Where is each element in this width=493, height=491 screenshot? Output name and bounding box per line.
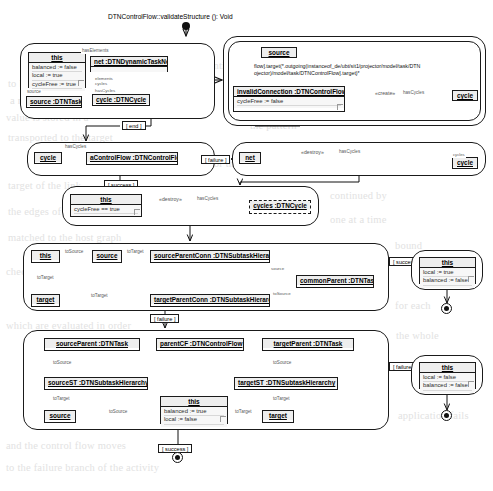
- link-label-hasElements: hasElements: [81, 48, 110, 54]
- object-node-cycle[interactable]: cycle: [34, 152, 62, 164]
- attr: cycleFree == true: [74, 206, 138, 214]
- attr: balanced := false: [423, 382, 472, 390]
- link-label-hasCycles: hasCycles: [94, 88, 116, 94]
- ghost-text: the whole: [396, 330, 439, 341]
- object-node-targetParentConn[interactable]: targetParentConn :DTNSubtaskHierarchy: [150, 294, 270, 307]
- link-label-toSource: toSource: [52, 360, 72, 366]
- ocl-constraint-text-2: ojector)/model/task/DTNControlFlow].targ…: [254, 70, 360, 77]
- ocl-line-2: ojector)/model/task/DTNControlFlow].targ…: [254, 70, 360, 76]
- object-node-this[interactable]: this balanced := true local := false: [160, 396, 228, 424]
- object-node-this[interactable]: this cycleFree == true: [70, 194, 142, 217]
- ghost-text: to the failure branch of the activity: [6, 462, 159, 473]
- link-label-toSource: toSource: [64, 249, 84, 255]
- object-node-cycle[interactable]: cycle :DTNCycle: [92, 94, 150, 106]
- attr: balanced := false: [32, 64, 82, 72]
- object-node-this[interactable]: this local := false balanced := false: [419, 362, 476, 389]
- object-node-net[interactable]: net: [239, 152, 261, 164]
- object-node-sourceParentConn[interactable]: sourceParentConn :DTNSubtaskHierarchy: [150, 250, 270, 263]
- object-title: sourceParentConn :DTNSubtaskHierarchy: [151, 251, 269, 260]
- object-title: this: [420, 363, 475, 373]
- object-attrs: [91, 67, 167, 72]
- fold-corner-icon: [78, 80, 84, 86]
- object-node-invalidConnection[interactable]: invalidConnection :DTNControlFlow cycleF…: [233, 86, 345, 112]
- object-node-targetST[interactable]: targetST :DTNSubtaskHierarchy: [234, 377, 338, 390]
- link-label-hasCycles: hasCycles: [338, 149, 361, 155]
- object-node-target[interactable]: target: [262, 410, 294, 423]
- object-title: source: [262, 48, 296, 57]
- stop-node: [441, 410, 452, 421]
- link-label-source: source: [270, 266, 285, 272]
- link-label-toTarget: toTarget: [272, 396, 291, 402]
- link-label-toSource: toSource: [108, 409, 128, 415]
- object-node-source-ref[interactable]: source: [261, 47, 297, 58]
- ghost-text: continued by: [330, 190, 387, 201]
- object-node-net[interactable]: net :DTNDynamicTaskNet: [90, 56, 168, 72]
- object-title: net :DTNDynamicTaskNet: [91, 57, 167, 67]
- object-title: commonParent :DTNTask: [297, 276, 373, 285]
- fold-corner-icon: [220, 416, 226, 422]
- object-node-aControlFlow[interactable]: aControlFlow :DTNControlFlow: [86, 152, 178, 165]
- object-node-this[interactable]: this balanced := false local := true cyc…: [28, 52, 86, 88]
- attr: cycleFree := true: [32, 81, 82, 89]
- link-label-toTarget: toTarget: [126, 249, 145, 255]
- attr: local := true: [32, 72, 82, 80]
- fold-corner-icon: [468, 276, 474, 282]
- link-label-hasCycles: hasCycles: [64, 144, 87, 150]
- object-node-sourceParent[interactable]: sourceParent :DTNTask: [44, 338, 140, 351]
- object-title: this: [29, 53, 85, 63]
- link-stereotype-destroy: «destroy»: [300, 149, 325, 155]
- object-title: targetST :DTNSubtaskHierarchy: [235, 378, 337, 387]
- page-title: DTNControlFlow::validateStructure (): Vo…: [108, 13, 233, 20]
- ocl-line-1: flow].target(*.outgoing(instanceof_de/ub…: [254, 63, 420, 69]
- object-title: this: [420, 258, 475, 268]
- link-stereotype-create: «create»: [374, 90, 396, 96]
- fold-corner-icon: [468, 381, 474, 387]
- object-node-this[interactable]: this: [31, 250, 60, 263]
- ghost-text: and the control flow moves: [6, 440, 126, 451]
- guard-end: [ end ]: [122, 121, 146, 130]
- object-title: source :DTNTask: [27, 97, 81, 106]
- object-node-targetParent[interactable]: targetParent :DTNTask: [262, 338, 354, 351]
- object-node-sourceST[interactable]: sourceST :DTNSubtaskHierarchy: [44, 377, 148, 390]
- ghost-text: bound: [395, 240, 422, 251]
- link-label-toSource: toSource: [272, 360, 292, 366]
- object-title: target: [32, 295, 59, 304]
- link-label-toTarget: toTarget: [90, 293, 109, 299]
- object-node-cycles[interactable]: cycles :DTNCycle: [249, 200, 311, 214]
- object-node-source[interactable]: source: [44, 410, 76, 423]
- link-stereotype-destroy: «destroy»: [158, 196, 183, 202]
- object-title: targetParentConn :DTNSubtaskHierarchy: [151, 295, 269, 304]
- link-label-toTarget: toTarget: [52, 396, 71, 402]
- object-title: this: [71, 195, 141, 205]
- guard-failure: [ failure ]: [150, 314, 179, 323]
- object-node-commonParent[interactable]: commonParent :DTNTask: [296, 275, 374, 288]
- start-node: [182, 22, 190, 30]
- attr: local := true: [423, 269, 472, 277]
- object-title: cycle: [35, 153, 61, 162]
- object-node-target[interactable]: target: [31, 294, 60, 307]
- object-attrs: balanced := false local := true cycleFre…: [29, 63, 85, 91]
- link-label-hasCycles: hasCycles: [402, 90, 425, 96]
- object-node-source[interactable]: source :DTNTask: [26, 96, 82, 108]
- object-attrs: cycleFree == true: [71, 205, 141, 216]
- object-node-parentCF[interactable]: parentCF :DTNControlFlow: [156, 338, 244, 351]
- object-node-this[interactable]: this local := true balanced := false: [419, 257, 476, 284]
- attr: balanced := false: [423, 277, 472, 285]
- object-node-cycle-ref[interactable]: cycle: [452, 90, 478, 101]
- object-title: cycle: [453, 91, 477, 100]
- object-attrs: balanced := true local := false: [161, 407, 227, 427]
- object-attrs: cycleFree := false: [234, 97, 344, 108]
- object-attrs: local := true balanced := false: [420, 268, 475, 288]
- ghost-text: for each: [395, 300, 431, 311]
- object-title: this: [32, 251, 59, 260]
- ghost-text: one at a time: [330, 214, 387, 225]
- link-label-cycles: cycles: [452, 152, 466, 158]
- attr: local := false: [164, 416, 224, 424]
- link-label-toTarget: toTarget: [234, 409, 253, 415]
- story-activity-2-right[interactable]: [232, 142, 486, 176]
- object-title: sourceST :DTNSubtaskHierarchy: [45, 378, 147, 387]
- object-node-source[interactable]: source: [92, 250, 122, 263]
- object-node-cycle[interactable]: cycle: [452, 157, 478, 169]
- object-title: this: [161, 397, 227, 407]
- link-label-toSource: toSource: [272, 291, 292, 297]
